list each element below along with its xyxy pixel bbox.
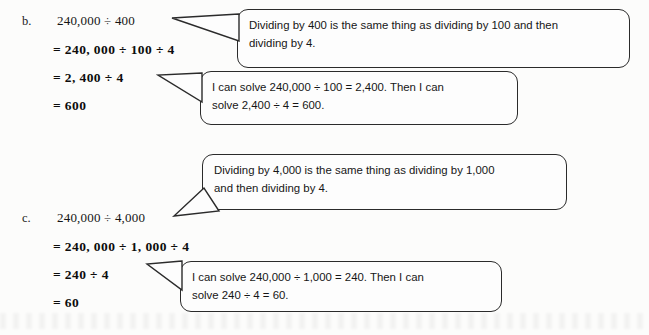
callout-b-compute-tail bbox=[0, 55, 260, 145]
callout-b-concept: Dividing by 400 is the same thing as div… bbox=[237, 9, 630, 68]
callout-c-concept-tail bbox=[0, 150, 280, 240]
callout-b-concept-line-1: Dividing by 400 is the same thing as div… bbox=[249, 19, 558, 31]
callout-c-compute-tail bbox=[0, 245, 260, 335]
callout-b-concept-text: Dividing by 400 is the same thing as div… bbox=[249, 17, 620, 52]
